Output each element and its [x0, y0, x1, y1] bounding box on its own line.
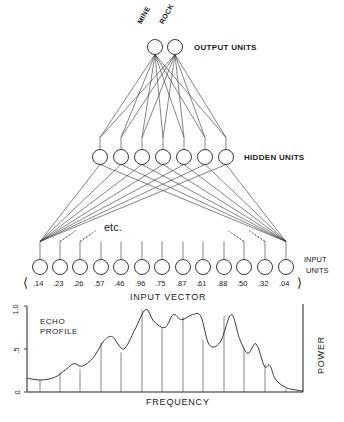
y-tick-0-5: .5 — [12, 347, 21, 353]
input-value: .57 — [94, 279, 104, 288]
hidden-unit — [177, 150, 192, 165]
etc-label: etc. — [104, 221, 122, 233]
hidden-unit — [198, 150, 213, 165]
input-value: .75 — [155, 279, 165, 288]
hidden-unit — [93, 150, 108, 165]
input-units-label-line1: INPUT — [304, 255, 327, 264]
hidden-unit — [114, 150, 129, 165]
input-value: .23 — [53, 279, 63, 288]
input-unit — [196, 260, 211, 275]
y-tick-1-0: 1.0 — [11, 304, 20, 314]
y-axis-label: POWER — [316, 336, 326, 374]
input-unit — [258, 260, 273, 275]
vector-close-bracket: ⟩ — [297, 275, 302, 290]
input-value: .26 — [73, 279, 83, 288]
chart-title-line2: PROFILE — [40, 327, 78, 336]
input-value: .96 — [135, 279, 145, 288]
x-axis-label: FREQUENCY — [146, 397, 210, 407]
input-unit — [279, 260, 294, 275]
input-unit — [94, 260, 109, 275]
input-value: .61 — [196, 279, 206, 288]
input-vector-label: INPUT VECTOR — [130, 292, 206, 302]
echo-profile-chart — [24, 304, 303, 392]
input-unit — [53, 260, 68, 275]
vector-open-bracket: ⟨ — [23, 275, 28, 290]
input-value: .14 — [33, 279, 43, 288]
input-value: .88 — [217, 279, 227, 288]
input-unit — [155, 260, 170, 275]
input-value: .04 — [279, 279, 289, 288]
input-unit — [237, 260, 252, 275]
hidden-unit — [219, 150, 234, 165]
hidden-unit — [135, 150, 150, 165]
neural-network-diagram — [0, 0, 344, 422]
output-unit-mine — [148, 40, 163, 55]
input-unit — [135, 260, 150, 275]
input-value: .32 — [258, 279, 268, 288]
input-value: .50 — [237, 279, 247, 288]
input-unit — [217, 260, 232, 275]
input-unit — [33, 260, 48, 275]
input-unit — [114, 260, 129, 275]
input-unit — [176, 260, 191, 275]
output-units-label: OUTPUT UNITS — [194, 43, 257, 52]
input-value: .87 — [176, 279, 186, 288]
hidden-units-label: HIDDEN UNITS — [244, 153, 305, 162]
output-unit-rock — [168, 40, 183, 55]
chart-title-line1: ECHO — [40, 317, 65, 326]
input-unit — [73, 260, 88, 275]
echo-profile-curve — [27, 309, 303, 391]
y-tick-0: 0 — [13, 390, 22, 394]
input-units-label-line2: UNITS — [306, 266, 329, 275]
hidden-unit — [156, 150, 171, 165]
input-value: .46 — [114, 279, 124, 288]
